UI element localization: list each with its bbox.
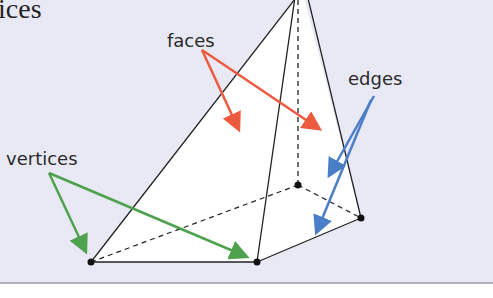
label-edges: edges [348,68,402,89]
label-faces: faces [167,30,215,51]
heading-fragment: ices [0,0,42,24]
vertex-back-hidden [295,182,302,189]
pyramid-diagram: ices faces edges vertices [0,0,493,298]
label-vertices: vertices [6,148,78,169]
vertex-front-right [254,259,261,266]
vertex-front-left [88,259,95,266]
vertex-back-right [358,215,365,222]
